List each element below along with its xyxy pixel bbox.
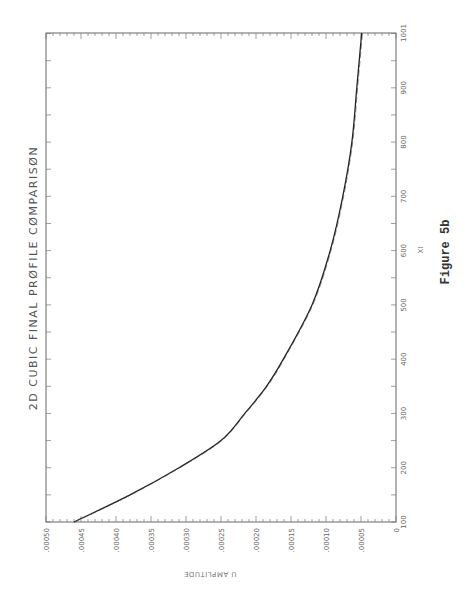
y-tick-label: .00045 bbox=[78, 528, 86, 553]
y-axis-label: U AMPLITUDE bbox=[183, 570, 236, 578]
y-tick-label: .00025 bbox=[218, 528, 226, 553]
x-tick-label: 1001 bbox=[400, 24, 408, 42]
x-axis-label: XI bbox=[417, 247, 425, 254]
x-tick-label: 800 bbox=[400, 135, 408, 148]
plot-frame bbox=[46, 33, 396, 522]
x-tick-label: 700 bbox=[400, 190, 408, 203]
x-tick-label: 400 bbox=[400, 352, 408, 365]
y-tick-label: .00040 bbox=[113, 528, 121, 553]
x-tick-label: 500 bbox=[400, 298, 408, 311]
y-tick-label: .00050 bbox=[43, 528, 51, 553]
x-tick-label: 300 bbox=[400, 407, 408, 420]
y-tick-label: .00010 bbox=[323, 528, 331, 553]
x-tick-label: 600 bbox=[400, 244, 408, 257]
y-tick-label: .00030 bbox=[183, 528, 191, 553]
figure: 0.00005.00010.00015.00020.00025.00030.00… bbox=[0, 0, 467, 603]
figure-caption: Figure 5b bbox=[439, 220, 453, 285]
chart-title: 2D CUBIC FINAL PRØFILE CØMPARISØN bbox=[27, 146, 40, 410]
y-tick-label: .00015 bbox=[288, 528, 296, 553]
comparison-curve bbox=[75, 33, 363, 522]
y-tick-label: .00035 bbox=[148, 528, 156, 553]
y-tick-label: .00020 bbox=[253, 528, 261, 553]
y-tick-label: .00005 bbox=[358, 528, 366, 553]
rotated-line-chart: 0.00005.00010.00015.00020.00025.00030.00… bbox=[0, 0, 467, 603]
profile-curve bbox=[74, 33, 362, 522]
x-tick-label: 900 bbox=[400, 81, 408, 94]
x-tick-label: 100 bbox=[400, 515, 408, 528]
x-tick-label: 200 bbox=[400, 461, 408, 474]
